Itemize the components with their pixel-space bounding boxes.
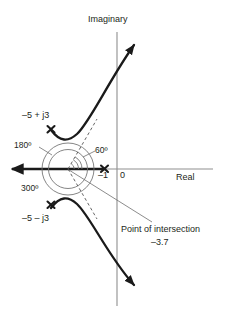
pole-label-minus-one: –1	[98, 170, 108, 180]
leader-line-60	[83, 151, 95, 157]
root-locus-plot	[0, 0, 228, 323]
intersection-annotation-title: Point of intersection	[121, 224, 200, 234]
imaginary-axis-label: Imaginary	[88, 14, 128, 24]
angle-label-180: 180º	[14, 140, 31, 150]
locus-branch-lower	[51, 198, 134, 285]
pole-label-lower: –5 – j3	[22, 213, 49, 223]
intersection-annotation-value: –3.7	[151, 237, 169, 247]
leader-line-180	[39, 147, 52, 155]
angle-label-300: 300º	[21, 183, 38, 193]
origin-label: 0	[120, 170, 125, 180]
leader-line-intersection	[69, 170, 152, 222]
locus-branch-upper	[51, 45, 134, 140]
angle-label-60: 60º	[95, 145, 108, 155]
pole-label-upper: –5 + j3	[22, 110, 49, 120]
real-axis-label: Real	[176, 172, 195, 182]
root-locus-figure: Imaginary Real 0 –1 –5 + j3 –5 – j3 180º…	[0, 0, 228, 323]
